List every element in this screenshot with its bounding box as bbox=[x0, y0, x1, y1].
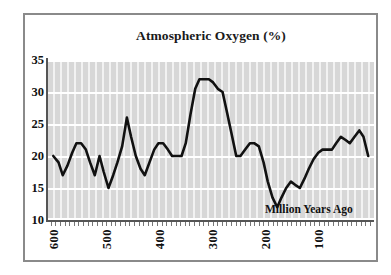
y-tick-label-35: 35 bbox=[22, 54, 44, 67]
x-tick-mark bbox=[365, 222, 366, 226]
x-tick-mark bbox=[282, 222, 283, 226]
x-tick-mark bbox=[245, 222, 246, 226]
x-tick-mark bbox=[83, 222, 84, 226]
y-tick-label-30: 30 bbox=[22, 86, 44, 99]
x-tick-mark bbox=[97, 222, 98, 226]
x-tick-mark bbox=[115, 222, 116, 226]
x-tick-mark bbox=[51, 222, 52, 226]
x-tick-mark bbox=[236, 222, 237, 226]
x-tick-mark bbox=[361, 222, 362, 226]
x-tick-mark bbox=[268, 222, 269, 226]
x-tick-mark bbox=[370, 222, 371, 226]
x-tick-mark bbox=[92, 222, 93, 226]
x-tick-mark bbox=[333, 222, 334, 226]
x-tick-mark bbox=[148, 222, 149, 226]
x-tick-mark bbox=[102, 222, 103, 226]
x-tick-mark bbox=[342, 222, 343, 226]
x-tick-mark bbox=[310, 222, 311, 226]
x-tick-mark bbox=[88, 222, 89, 226]
x-tick-mark bbox=[347, 222, 348, 226]
x-tick-label-100: 100 bbox=[313, 229, 326, 249]
x-tick-mark bbox=[324, 222, 325, 226]
x-axis-line bbox=[46, 220, 374, 222]
x-tick-mark bbox=[259, 222, 260, 226]
x-tick-mark bbox=[106, 222, 107, 226]
x-tick-label-300: 300 bbox=[207, 229, 220, 249]
x-tick-mark bbox=[217, 222, 218, 226]
x-tick-mark bbox=[60, 222, 61, 226]
x-tick-mark bbox=[55, 222, 56, 226]
x-tick-mark bbox=[120, 222, 121, 226]
y-axis-line bbox=[46, 58, 48, 222]
x-tick-mark bbox=[319, 222, 320, 226]
plot-area bbox=[48, 60, 374, 220]
x-tick-mark bbox=[213, 222, 214, 226]
x-tick-mark bbox=[189, 222, 190, 226]
x-tick-mark bbox=[250, 222, 251, 226]
x-tick-mark bbox=[74, 222, 75, 226]
x-tick-mark bbox=[65, 222, 66, 226]
x-tick-mark bbox=[273, 222, 274, 226]
x-tick-mark bbox=[226, 222, 227, 226]
x-tick-mark bbox=[356, 222, 357, 226]
x-tick-mark bbox=[203, 222, 204, 226]
x-tick-mark bbox=[328, 222, 329, 226]
y-tick-label-15: 15 bbox=[22, 182, 44, 195]
x-tick-mark bbox=[291, 222, 292, 226]
x-tick-mark bbox=[296, 222, 297, 226]
data-series-oxygen bbox=[48, 60, 374, 220]
x-tick-mark bbox=[185, 222, 186, 226]
x-tick-mark bbox=[166, 222, 167, 226]
x-tick-label-500: 500 bbox=[101, 229, 114, 249]
x-tick-mark bbox=[139, 222, 140, 226]
x-tick-mark bbox=[129, 222, 130, 226]
x-tick-mark bbox=[208, 222, 209, 226]
x-tick-mark bbox=[162, 222, 163, 226]
x-tick-mark bbox=[351, 222, 352, 226]
x-tick-mark bbox=[152, 222, 153, 226]
x-tick-label-200: 200 bbox=[260, 229, 273, 249]
x-tick-mark bbox=[314, 222, 315, 226]
y-axis-tick-labels: 35 30 25 20 15 10 bbox=[18, 0, 44, 275]
x-tick-mark bbox=[277, 222, 278, 226]
x-tick-mark bbox=[111, 222, 112, 226]
y-tick-label-10: 10 bbox=[22, 214, 44, 227]
x-tick-mark bbox=[222, 222, 223, 226]
x-tick-mark bbox=[199, 222, 200, 226]
chart-title: Atmospheric Oxygen (%) bbox=[48, 28, 374, 44]
x-axis-annotation-label: Million Years Ago bbox=[265, 203, 353, 215]
x-tick-mark bbox=[78, 222, 79, 226]
x-tick-mark bbox=[305, 222, 306, 226]
x-tick-mark bbox=[300, 222, 301, 226]
x-tick-label-400: 400 bbox=[154, 229, 167, 249]
x-tick-mark bbox=[157, 222, 158, 226]
x-tick-mark bbox=[134, 222, 135, 226]
chart-figure: Atmospheric Oxygen (%) 35 30 25 20 15 10… bbox=[0, 0, 391, 275]
x-tick-mark bbox=[171, 222, 172, 226]
x-tick-mark bbox=[338, 222, 339, 226]
x-tick-mark bbox=[240, 222, 241, 226]
x-tick-mark bbox=[180, 222, 181, 226]
x-tick-mark bbox=[263, 222, 264, 226]
x-tick-mark bbox=[194, 222, 195, 226]
x-tick-mark bbox=[231, 222, 232, 226]
x-tick-label-600: 600 bbox=[48, 229, 61, 249]
x-tick-mark bbox=[69, 222, 70, 226]
x-tick-mark bbox=[143, 222, 144, 226]
x-tick-mark bbox=[287, 222, 288, 226]
x-tick-mark bbox=[254, 222, 255, 226]
y-tick-label-25: 25 bbox=[22, 118, 44, 131]
x-tick-mark bbox=[125, 222, 126, 226]
x-tick-mark bbox=[176, 222, 177, 226]
y-tick-label-20: 20 bbox=[22, 150, 44, 163]
